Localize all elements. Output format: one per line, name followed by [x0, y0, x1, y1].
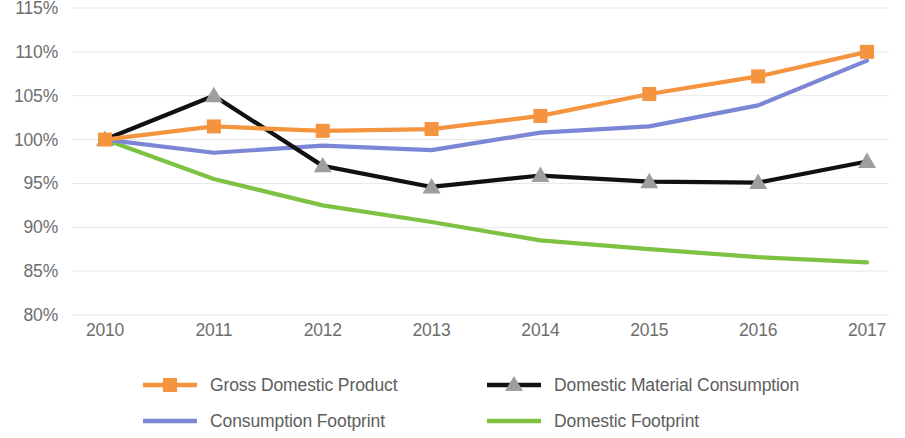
x-tick-label: 2017 [848, 320, 886, 341]
data-point-marker-triangle [314, 157, 332, 172]
data-point-marker-square [533, 109, 547, 123]
data-point-marker-square [860, 45, 874, 59]
legend-swatch-icon [143, 375, 197, 395]
chart-legend: Gross Domestic ProductDomestic Material … [0, 366, 905, 438]
x-tick-label: 2015 [630, 320, 668, 341]
series-markers [96, 45, 876, 194]
plot-area [72, 8, 889, 315]
y-tick-label: 80% [24, 305, 58, 326]
legend-swatch-icon [143, 411, 197, 431]
data-point-marker-square [316, 124, 330, 138]
legend-item-domestic-material-consumption[interactable]: Domestic Material Consumption [487, 372, 799, 398]
data-point-marker-square [207, 119, 221, 133]
x-axis: 20102011201220132014201520162017 [72, 320, 889, 350]
series-lines [105, 52, 867, 263]
legend-label: Consumption Footprint [210, 411, 385, 432]
data-point-marker-triangle [858, 153, 876, 168]
y-tick-label: 95% [24, 173, 58, 194]
y-tick-label: 85% [24, 261, 58, 282]
legend-label: Domestic Material Consumption [554, 375, 799, 396]
data-point-marker-triangle [205, 87, 223, 102]
y-tick-label: 110% [15, 41, 58, 62]
x-tick-label: 2010 [86, 320, 124, 341]
y-tick-label: 90% [24, 217, 58, 238]
x-tick-label: 2012 [304, 320, 342, 341]
legend-swatch-icon [487, 375, 541, 395]
legend-label: Domestic Footprint [554, 411, 699, 432]
data-point-marker-square [98, 133, 112, 147]
data-point-marker-square [751, 69, 765, 83]
legend-swatch-icon [487, 411, 541, 431]
legend-item-consumption-footprint[interactable]: Consumption Footprint [143, 408, 385, 434]
x-tick-label: 2013 [412, 320, 450, 341]
line-chart: 115%110%105%100%95%90%85%80% 20102011201… [0, 0, 905, 438]
y-tick-label: 115% [15, 0, 58, 19]
gridlines [72, 8, 889, 315]
legend-item-domestic-footprint[interactable]: Domestic Footprint [487, 408, 699, 434]
data-point-marker-square [642, 87, 656, 101]
y-tick-label: 100% [14, 129, 58, 150]
data-point-marker-square [425, 122, 439, 136]
x-tick-label: 2016 [739, 320, 777, 341]
y-tick-label: 105% [14, 85, 58, 106]
x-tick-label: 2011 [195, 320, 232, 341]
plot-svg [72, 8, 889, 315]
x-tick-label: 2014 [521, 320, 559, 341]
legend-label: Gross Domestic Product [210, 375, 397, 396]
y-axis: 115%110%105%100%95%90%85%80% [0, 0, 66, 315]
legend-item-gross-domestic-product[interactable]: Gross Domestic Product [143, 372, 397, 398]
series-line [105, 140, 867, 263]
